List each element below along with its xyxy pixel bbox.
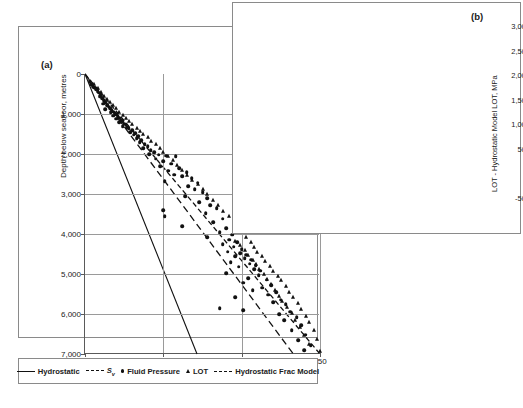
- panel-b-y-tick-label: 2,500: [511, 46, 523, 55]
- panel-a-data-point-fluid-pressure: [246, 276, 250, 280]
- panel-a-data-point-fluid-pressure: [180, 175, 184, 179]
- panel-a-y-tick-label: 4,000: [61, 230, 81, 239]
- panel-a-data-point-lot: [221, 209, 225, 213]
- panel-a-data-point-lot: [251, 257, 255, 261]
- panel-a-y-tickmark: [81, 114, 85, 115]
- panel-a-data-point-lot: [233, 239, 237, 243]
- panel-a-y-tick-label: 1,000: [61, 110, 81, 119]
- panel-a-data-point-fluid-pressure: [229, 260, 233, 264]
- panel-a-y-tickmark: [81, 274, 85, 275]
- panel-a-y-tickmark: [81, 194, 85, 195]
- panel-b-label: (b): [471, 11, 483, 22]
- legend-item-hydrostatic: Hydrostatic: [17, 367, 80, 376]
- panel-a-y-tick-label: 5,000: [61, 270, 81, 279]
- panel-a-data-point-lot: [227, 214, 231, 218]
- panel-a-data-point-lot: [280, 299, 284, 303]
- panel-a-data-point-fluid-pressure: [221, 243, 225, 247]
- panel-b-y-tick-label: -500: [515, 194, 523, 203]
- panel-a-data-point-lot: [255, 249, 259, 253]
- panel-a-data-point-fluid-pressure: [183, 194, 187, 198]
- dashed-line-icon: [86, 370, 104, 371]
- panel-a-y-axis-label: Depth below seafloor, metres: [59, 74, 68, 178]
- legend-label-sv-subscript: v: [112, 370, 115, 376]
- panel-b-y-tick-label: 1,500: [511, 95, 523, 104]
- panel-a-data-point-fluid-pressure: [135, 136, 139, 140]
- panel-b-y-tick-label: 2,000: [511, 71, 523, 80]
- panel-a-data-point-lot: [307, 320, 311, 324]
- panel-a-data-point-lot: [260, 254, 264, 258]
- panel-a-data-point-lot: [244, 235, 248, 239]
- panel-a-data-point-fluid-pressure: [232, 245, 236, 249]
- panel-a-data-point-fluid-pressure: [234, 295, 238, 299]
- panel-a-data-point-lot: [216, 203, 220, 207]
- panel-a-data-point-fluid-pressure: [193, 187, 197, 191]
- panel-a-y-tickmark: [81, 234, 85, 235]
- panel-a-data-point-lot: [312, 328, 316, 332]
- panel-a-data-point-fluid-pressure: [221, 217, 225, 221]
- panel-a-data-point-lot: [315, 337, 319, 341]
- panel-a-data-point-fluid-pressure: [204, 211, 208, 215]
- panel-b-y-tick-label: 500: [517, 144, 523, 153]
- panel-a-data-point-fluid-pressure: [209, 203, 213, 207]
- legend-label-sv: Sv: [107, 366, 115, 377]
- panel-a-data-point-fluid-pressure: [234, 255, 238, 259]
- panel-a-data-point-lot: [161, 150, 165, 154]
- panel-a-data-point-lot: [254, 262, 258, 266]
- panel-a-data-point-lot: [190, 177, 194, 181]
- panel-a-data-point-lot: [285, 305, 289, 309]
- panel-b-y-tick-label: 3,000: [511, 22, 523, 31]
- panel-a-data-point-lot: [304, 313, 308, 317]
- panel-a-data-point-fluid-pressure: [141, 146, 145, 150]
- panel-b-y-axis-label: LOT - Hydrostatic Model LOT, MPa: [490, 75, 499, 192]
- panel-a-y-tick-label: 6,000: [61, 310, 81, 319]
- panel-a-data-point-lot: [302, 333, 306, 337]
- panel-a-data-point-lot: [307, 342, 311, 346]
- panel-a-data-point-fluid-pressure: [277, 312, 281, 316]
- legend-label-fluid-pressure: Fluid Pressure: [127, 367, 180, 376]
- panel-a-data-point-fluid-pressure: [267, 293, 271, 297]
- panel-a-gridline-h: [85, 274, 319, 275]
- panel-a-gridline-h: [85, 234, 319, 235]
- panel-a-data-point-fluid-pressure: [205, 235, 209, 239]
- solid-line-icon: [17, 371, 35, 372]
- panel-a-data-point-fluid-pressure: [212, 220, 216, 224]
- panel-a-data-point-fluid-pressure: [104, 107, 108, 111]
- panel-a-data-point-fluid-pressure: [290, 328, 294, 332]
- panel-a-data-point-lot: [290, 311, 294, 315]
- panel-a-data-point-lot: [141, 132, 145, 136]
- panel-a-data-point-fluid-pressure: [260, 286, 264, 290]
- panel-a-data-point-lot: [269, 282, 273, 286]
- panel-a-data-point-lot: [318, 349, 322, 353]
- panel-a-data-point-lot: [262, 272, 266, 276]
- panel-a-data-point-lot: [299, 307, 303, 311]
- figure-container: (a) Depth below seafloor, metres Pressur…: [0, 0, 523, 408]
- panel-a-data-point-fluid-pressure: [157, 153, 161, 157]
- panel-a-data-point-fluid-pressure: [163, 179, 167, 183]
- panel-a-data-point-fluid-pressure: [218, 230, 222, 234]
- panel-a-data-point-fluid-pressure: [187, 184, 191, 188]
- panel-a-data-point-lot: [263, 259, 267, 263]
- panel-a-data-point-fluid-pressure: [169, 162, 173, 166]
- panel-a-data-point-lot: [149, 139, 153, 143]
- panel-a-data-point-lot: [166, 154, 170, 158]
- panel-a-data-point-lot: [249, 240, 253, 244]
- panel-b: (b) LOT - Hydrostatic Model LOT, MPa Ove…: [232, 2, 521, 234]
- panel-a-data-point-lot: [130, 122, 134, 126]
- panel-a-data-point-fluid-pressure: [180, 224, 184, 228]
- panel-a-data-point-fluid-pressure: [218, 307, 222, 311]
- panel-a-y-tickmark: [81, 74, 85, 75]
- panel-a-data-point-fluid-pressure: [163, 215, 167, 219]
- panel-a-data-point-fluid-pressure: [138, 140, 142, 144]
- panel-a-data-point-fluid-pressure: [271, 300, 275, 304]
- panel-a-data-point-lot: [205, 192, 209, 196]
- figure-legend: Hydrostatic Sv Fluid Pressure LOT Hydros…: [18, 358, 318, 384]
- panel-a-data-point-lot: [293, 317, 297, 321]
- legend-label-hydrostatic: Hydrostatic: [38, 367, 80, 376]
- panel-a-y-tick-label: 0: [77, 70, 81, 79]
- panel-a-data-point-fluid-pressure: [243, 256, 247, 260]
- panel-a-data-point-lot: [252, 245, 256, 249]
- panel-a-data-point-lot: [175, 163, 179, 167]
- legend-item-frac-model: Hydrostatic Frac Model: [214, 367, 319, 376]
- panel-a-data-point-lot: [284, 284, 288, 288]
- panel-a-data-point-fluid-pressure: [252, 267, 256, 271]
